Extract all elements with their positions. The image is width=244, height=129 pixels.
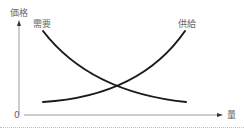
bottom-dotted-divider bbox=[0, 127, 244, 128]
supply-curve bbox=[43, 31, 185, 102]
origin-label: 0 bbox=[14, 111, 20, 120]
supply-demand-diagram: 価格 需要 供給 0 量 bbox=[0, 0, 244, 129]
x-axis-arrow-icon bbox=[217, 113, 223, 117]
y-axis-arrow-icon bbox=[17, 20, 21, 26]
y-axis-label: 価格 bbox=[10, 9, 28, 18]
demand-label: 需要 bbox=[33, 20, 51, 29]
supply-label: 供給 bbox=[178, 20, 196, 29]
x-axis-label: 量 bbox=[227, 111, 236, 120]
demand-curve bbox=[43, 31, 186, 102]
